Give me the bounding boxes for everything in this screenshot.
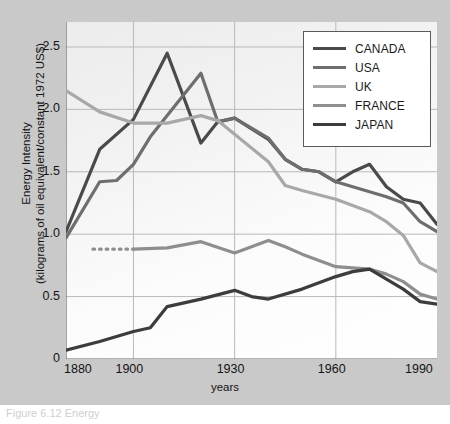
y-tick-label: 2.0 xyxy=(20,101,60,115)
x-tick-label: 1930 xyxy=(217,362,245,376)
legend-label: UK xyxy=(355,80,372,94)
x-tick-label: 1990 xyxy=(405,362,433,376)
series-line-japan xyxy=(66,269,437,350)
legend-item-usa[interactable]: USA xyxy=(304,58,430,77)
legend-label: JAPAN xyxy=(355,118,393,132)
series-line-france xyxy=(133,240,437,299)
legend-swatch-icon xyxy=(313,123,346,126)
figure-caption-strip: Figure 6.12 Energy xyxy=(0,405,450,424)
legend-item-canada[interactable]: CANADA xyxy=(304,39,430,58)
y-tick-label: 0 xyxy=(20,351,60,365)
figure-caption: Figure 6.12 Energy xyxy=(6,407,100,419)
legend-item-japan[interactable]: JAPAN xyxy=(304,115,430,134)
x-tick-label: 1960 xyxy=(318,362,346,376)
y-axis-title-container: Energy Intensity (kilograms of oil equiv… xyxy=(0,0,60,360)
legend-label: FRANCE xyxy=(355,99,405,113)
legend-item-uk[interactable]: UK xyxy=(304,77,430,96)
x-tick-label: 1880 xyxy=(64,362,92,376)
y-tick-label: 1.0 xyxy=(20,226,60,240)
legend-swatch-icon xyxy=(313,66,346,69)
legend-swatch-icon xyxy=(313,47,346,50)
y-tick-label: 0.5 xyxy=(20,289,60,303)
y-tick-label: 2.5 xyxy=(20,39,60,53)
legend-item-france[interactable]: FRANCE xyxy=(304,96,430,115)
legend-label: CANADA xyxy=(355,42,406,56)
legend-swatch-icon xyxy=(313,104,346,107)
x-axis-title: years xyxy=(0,381,450,393)
chart-legend[interactable]: CANADAUSAUKFRANCEJAPAN xyxy=(303,31,431,147)
figure-container: Energy Intensity (kilograms of oil equiv… xyxy=(0,0,450,424)
legend-label: USA xyxy=(355,61,380,75)
x-tick-label: 1900 xyxy=(115,362,143,376)
y-tick-label: 1.5 xyxy=(20,164,60,178)
legend-swatch-icon xyxy=(313,85,346,88)
